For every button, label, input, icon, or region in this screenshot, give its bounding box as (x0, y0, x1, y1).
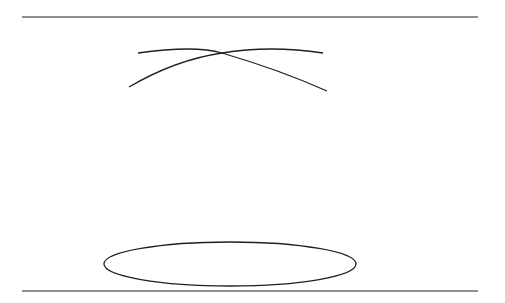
privacy-pyramid-diagram (0, 0, 505, 303)
base-oval (104, 242, 356, 286)
curve-consent-to-law (138, 49, 327, 91)
